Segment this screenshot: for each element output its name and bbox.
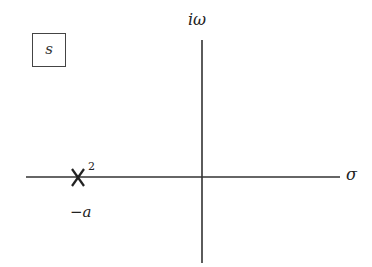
axes-diagram — [0, 0, 372, 267]
pole-location-label: −a — [70, 203, 92, 221]
real-axis-label: σ — [346, 165, 357, 184]
imaginary-axis-label: iω — [188, 10, 206, 29]
pole-multiplicity: 2 — [88, 160, 95, 173]
